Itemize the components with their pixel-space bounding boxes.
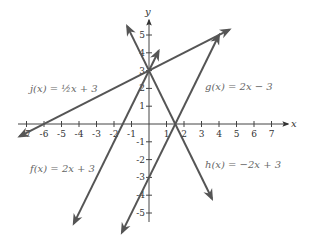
y-tick-label: 1 xyxy=(139,101,145,111)
label-j: j(x) = ½x + 3 xyxy=(28,83,98,94)
label-f: f(x) = 2x + 3 xyxy=(29,163,95,174)
x-tick-label: 5 xyxy=(234,129,240,139)
x-tick-label: -4 xyxy=(75,129,84,139)
label-g: g(x) = 2x − 3 xyxy=(205,81,273,92)
x-tick-label: -1 xyxy=(127,129,136,139)
x-tick-label: -3 xyxy=(92,129,101,139)
x-tick-label: 7 xyxy=(269,129,275,139)
x-tick-label: -6 xyxy=(40,129,49,139)
x-axis-label: x xyxy=(291,118,297,129)
x-tick-label: 3 xyxy=(199,129,205,139)
x-tick-label: 6 xyxy=(251,129,257,139)
x-tick-label: -5 xyxy=(57,129,66,139)
y-tick-label: -1 xyxy=(136,137,145,147)
y-tick-label: -3 xyxy=(136,172,145,182)
y-tick-label: -2 xyxy=(136,155,145,165)
label-h: h(x) = −2x + 3 xyxy=(205,159,281,170)
y-tick-label: 5 xyxy=(139,30,145,40)
line-f xyxy=(74,51,159,224)
y-tick-label: -5 xyxy=(136,208,145,218)
y-axis-label: y xyxy=(144,6,151,17)
x-tick-label: 4 xyxy=(216,129,222,139)
linear-functions-graph: -7-6-5-4-3-2-11234567-5-4-3-2-112345 x y… xyxy=(0,0,310,240)
line-g xyxy=(122,35,219,233)
axes xyxy=(18,20,288,222)
